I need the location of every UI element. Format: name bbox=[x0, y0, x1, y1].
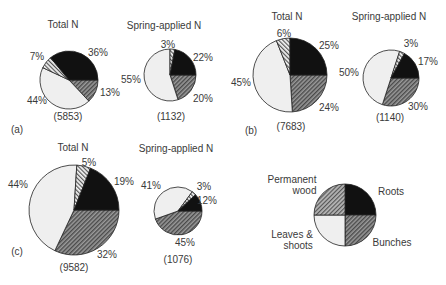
pie-a-total-leaves-label: 44% bbox=[27, 96, 47, 106]
pie-b-total-leaves-label: 45% bbox=[231, 78, 251, 88]
pie-c-total-leaves-label: 44% bbox=[8, 180, 28, 190]
pie-b-total-title: Total N bbox=[271, 12, 302, 22]
pie-c-total-n: (9582) bbox=[60, 263, 89, 273]
pie-b-total-n: (7683) bbox=[277, 122, 306, 132]
pie-c-spring-title: Spring-applied N bbox=[139, 144, 214, 154]
legend-swatch-roots bbox=[345, 184, 376, 215]
pie-a-spring-bunches-label: 20% bbox=[193, 94, 213, 104]
legend-wood: Permanent wood bbox=[268, 175, 317, 196]
legend-roots: Roots bbox=[378, 187, 404, 198]
pie-a-total-title: Total N bbox=[47, 20, 78, 30]
pie-c-total-roots-label: 19% bbox=[114, 177, 134, 187]
pie-c-spring-n: (1076) bbox=[164, 255, 193, 265]
legend-swatch-leaves bbox=[314, 215, 345, 246]
pie-c-total-title: Total N bbox=[57, 143, 88, 153]
legend-leaves-line1: Leaves & bbox=[271, 230, 313, 241]
panel-b-label: (b) bbox=[245, 126, 257, 136]
pie-a-total-bunches-label: 13% bbox=[100, 88, 120, 98]
pie-a-total-wood-label: 7% bbox=[30, 52, 44, 62]
pie-b-total-bunches-label: 24% bbox=[319, 103, 339, 113]
pie-c-total-bunches-label: 32% bbox=[97, 250, 117, 260]
legend-bunches: Bunches bbox=[373, 238, 412, 249]
pie-b-spring-n: (1140) bbox=[376, 113, 404, 123]
pie-c-total-wood-label: 5% bbox=[82, 158, 96, 168]
legend-wood-line1: Permanent bbox=[268, 175, 317, 186]
legend-wood-line2: wood bbox=[268, 185, 317, 196]
pie-a-spring-wood-label: 3% bbox=[161, 40, 175, 50]
legend-leaves: Leaves & shoots bbox=[271, 230, 313, 251]
pie-c-spring-leaves-label: 41% bbox=[141, 181, 161, 191]
pie-c-spring-bunches-label: 45% bbox=[175, 238, 195, 248]
pie-b-spring-leaves-label: 50% bbox=[339, 68, 359, 78]
pie-b-spring-bunches-label: 30% bbox=[408, 102, 428, 112]
pie-b-total-wood-label: 6% bbox=[277, 29, 291, 39]
pie-a-total-n: (5853) bbox=[54, 112, 83, 122]
pie-a-spring-title: Spring-applied N bbox=[127, 21, 202, 31]
pie-a-spring-leaves-label: 55% bbox=[121, 75, 141, 85]
pie-b-total-roots-label: 25% bbox=[319, 41, 339, 51]
pie-b-spring-wood-label: 3% bbox=[404, 39, 418, 49]
pie-a-total-roots-label: 36% bbox=[88, 48, 108, 58]
pie-b-spring-roots-label: 17% bbox=[418, 57, 438, 67]
pie-a-spring-roots-label: 22% bbox=[193, 53, 213, 63]
legend-swatch-bunches bbox=[345, 215, 376, 246]
panel-c-label: (c) bbox=[11, 247, 23, 257]
panel-a-label: (a) bbox=[11, 125, 23, 135]
pie-b-spring-title: Spring-applied N bbox=[352, 12, 427, 22]
legend-leaves-line2: shoots bbox=[271, 240, 313, 251]
pie-c-spring-wood-label: 3% bbox=[197, 182, 211, 192]
legend-swatch-wood bbox=[314, 184, 345, 215]
pie-c-spring-roots-label: 12% bbox=[197, 196, 217, 206]
pie-a-spring-n: (1132) bbox=[157, 112, 185, 122]
